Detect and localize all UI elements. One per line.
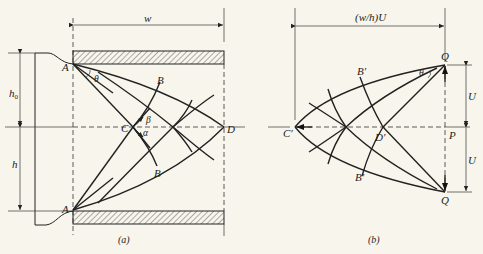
- panel-a: w h0 h: [5, 8, 245, 246]
- billet-outline: [35, 53, 73, 225]
- panel-b: (w/h)U U U Q: [268, 8, 477, 246]
- slip-line-field-a: [73, 64, 224, 210]
- hodograph-field-b: [295, 65, 445, 192]
- point-D-prime: D′: [374, 131, 386, 143]
- angle-beta: β: [145, 115, 151, 125]
- h0-label: h0: [9, 87, 19, 101]
- point-P: P: [448, 129, 456, 141]
- w-label: w: [144, 12, 152, 24]
- angle-theta-a: θ: [94, 74, 99, 84]
- point-B-prime-bottom: B′: [355, 171, 365, 183]
- lower-die-wall: [73, 211, 224, 224]
- slip-line-field-figure: w h0 h: [0, 0, 483, 254]
- U-top-label: U: [468, 90, 477, 102]
- point-Q-top: Q: [441, 50, 449, 62]
- point-D: D: [226, 123, 235, 135]
- caption-b: (b): [368, 234, 380, 246]
- point-C: C: [121, 122, 129, 134]
- point-C-prime: C′: [283, 127, 293, 139]
- point-B-top: B: [157, 74, 164, 86]
- point-B-prime-top: B′: [357, 65, 367, 77]
- U-bottom-label: U: [468, 154, 477, 166]
- h-label: h: [12, 158, 18, 170]
- point-B-bottom: B: [154, 167, 161, 179]
- wh-U-label: (w/h)U: [355, 11, 387, 24]
- caption-a: (a): [118, 234, 130, 246]
- point-A-bottom: A: [61, 203, 69, 215]
- point-A-top: A: [61, 61, 69, 73]
- angle-theta-b: θ: [419, 68, 424, 78]
- angle-alpha: α: [143, 128, 149, 138]
- point-Q-bottom: Q: [441, 194, 449, 206]
- upper-die-wall: [73, 51, 224, 64]
